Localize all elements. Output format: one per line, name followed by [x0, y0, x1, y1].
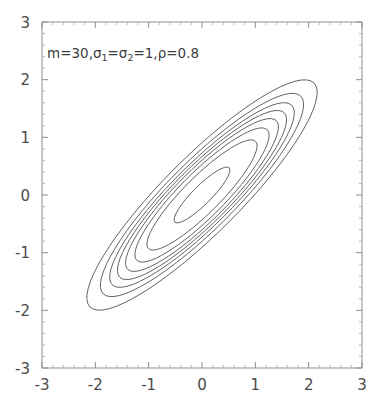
x-axis-tick-labels: -3-2-10123 [35, 376, 367, 394]
y-tick-label: 3 [20, 14, 30, 32]
plot-frame [42, 22, 362, 368]
x-tick-label: 3 [357, 376, 367, 394]
contour-level-3 [121, 114, 283, 276]
x-tick-label: -2 [88, 376, 103, 394]
annotation-label: m=30,σ1=σ2=1,ρ=0.8 [47, 45, 199, 63]
y-tick-label: 1 [20, 129, 30, 147]
y-axis-tick-labels: -3-2-10123 [15, 14, 30, 378]
contour-level-7 [79, 72, 324, 317]
y-tick-label: -1 [15, 244, 30, 262]
contour-plot-figure: -3-2-10123 -3-2-10123 m=30,σ1=σ2=1,ρ=0.8 [0, 0, 375, 403]
parameter-annotation: m=30,σ1=σ2=1,ρ=0.8 [47, 45, 199, 63]
contour-level-6 [91, 84, 314, 307]
plot-border [42, 22, 362, 368]
annotation-m-term: m=30, [47, 45, 93, 61]
plot-canvas: -3-2-10123 -3-2-10123 m=30,σ1=σ2=1,ρ=0.8 [0, 0, 375, 403]
contour-curves [63, 56, 341, 334]
x-tick-label: -3 [35, 376, 50, 394]
contour-level-5 [100, 93, 304, 297]
axis-ticks [42, 22, 362, 368]
y-tick-label: 0 [20, 187, 30, 205]
x-tick-label: -1 [141, 376, 156, 394]
annotation-equals-2: =1, [133, 45, 157, 61]
contour-level-8 [63, 56, 341, 334]
x-tick-label: 1 [251, 376, 261, 394]
contour-level-4 [110, 103, 294, 287]
y-tick-label: 2 [20, 71, 30, 89]
x-tick-label: 2 [304, 376, 314, 394]
y-tick-label: -3 [15, 360, 30, 378]
annotation-rho-term: ρ=0.8 [158, 45, 199, 61]
x-tick-label: 0 [197, 376, 207, 394]
y-tick-label: -2 [15, 302, 30, 320]
annotation-equals-1: = [108, 45, 119, 61]
